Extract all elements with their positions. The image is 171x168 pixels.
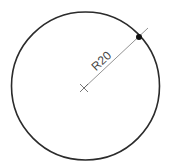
radius-label: R20 [88, 48, 114, 73]
diagram-canvas: R20 [0, 0, 171, 168]
center-mark-icon [80, 84, 88, 92]
radius-endpoint-dot [136, 34, 142, 40]
